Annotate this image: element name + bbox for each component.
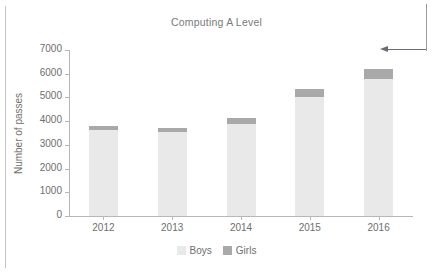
bar-2014 xyxy=(227,118,256,216)
chart-legend: BoysGirls xyxy=(0,245,433,256)
x-tick-label: 2013 xyxy=(142,222,202,233)
bar-segment-girls xyxy=(89,126,118,130)
y-tick-mark xyxy=(65,169,70,170)
y-tick-label: 5000 xyxy=(18,90,62,101)
bar-segment-boys xyxy=(364,79,393,216)
bar-segment-boys xyxy=(158,132,187,216)
bar-segment-girls xyxy=(227,118,256,123)
x-tick-mark xyxy=(241,216,242,220)
legend-label: Girls xyxy=(236,245,257,256)
legend-swatch-icon xyxy=(177,246,186,255)
y-tick-label: 2000 xyxy=(18,162,62,173)
x-tick-label: 2015 xyxy=(280,222,340,233)
bar-segment-girls xyxy=(364,69,393,79)
x-tick-mark xyxy=(379,216,380,220)
y-tick-mark xyxy=(65,50,70,51)
legend-item-boys[interactable]: Boys xyxy=(177,245,212,256)
y-tick-label: 1000 xyxy=(18,185,62,196)
x-tick-label: 2012 xyxy=(73,222,133,233)
bar-2012 xyxy=(89,126,118,216)
y-tick-mark xyxy=(65,74,70,75)
y-tick-mark xyxy=(65,192,70,193)
y-tick-label: 6000 xyxy=(18,67,62,78)
x-tick-label: 2014 xyxy=(211,222,271,233)
bar-segment-boys xyxy=(89,130,118,216)
bar-segment-girls xyxy=(158,128,187,132)
bar-2015 xyxy=(295,89,324,216)
y-tick-label: 4000 xyxy=(18,114,62,125)
y-tick-label: 0 xyxy=(18,209,62,220)
y-tick-mark xyxy=(65,145,70,146)
y-tick-mark xyxy=(65,121,70,122)
y-tick-mark xyxy=(65,216,70,217)
bar-segment-boys xyxy=(227,124,256,216)
x-tick-mark xyxy=(172,216,173,220)
y-tick-mark xyxy=(65,97,70,98)
bar-2016 xyxy=(364,69,393,216)
bar-2013 xyxy=(158,128,187,216)
chart-title: Computing A Level xyxy=(0,16,433,28)
x-tick-mark xyxy=(103,216,104,220)
legend-swatch-icon xyxy=(223,246,232,255)
x-tick-mark xyxy=(310,216,311,220)
bar-chart: Computing A Level Number of passes 01000… xyxy=(0,0,433,272)
y-tick-label: 7000 xyxy=(18,43,62,54)
bar-segment-boys xyxy=(295,97,324,216)
legend-item-girls[interactable]: Girls xyxy=(223,245,257,256)
legend-label: Boys xyxy=(190,245,212,256)
x-tick-label: 2016 xyxy=(349,222,409,233)
page-canvas: Computing A Level Number of passes 01000… xyxy=(0,0,433,272)
y-tick-label: 3000 xyxy=(18,138,62,149)
bar-segment-girls xyxy=(295,89,324,97)
